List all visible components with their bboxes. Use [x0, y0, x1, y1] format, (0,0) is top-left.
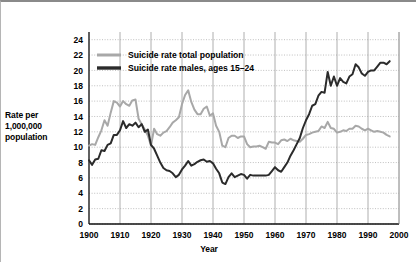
- svg-text:18: 18: [74, 81, 84, 91]
- chart-figure: Rate per 1,000,000 population Year 02468…: [0, 0, 416, 262]
- svg-text:1970: 1970: [297, 230, 316, 240]
- series-line-1: [89, 61, 390, 184]
- series-line-0: [89, 90, 390, 148]
- svg-text:16: 16: [74, 96, 84, 106]
- svg-text:10: 10: [74, 142, 84, 152]
- legend-label-1: Suicide rate males, ages 15–24: [128, 63, 254, 73]
- svg-text:1950: 1950: [235, 230, 254, 240]
- line-chart: 024681012141618202224 190019101920193019…: [1, 2, 416, 262]
- svg-text:24: 24: [74, 35, 84, 45]
- svg-text:1940: 1940: [204, 230, 223, 240]
- svg-text:2000: 2000: [390, 230, 409, 240]
- chart-legend: Suicide rate total populationSuicide rat…: [97, 50, 254, 73]
- svg-text:20: 20: [74, 66, 84, 76]
- y-axis-tick-labels: 024681012141618202224: [74, 35, 84, 229]
- svg-text:1930: 1930: [173, 230, 192, 240]
- svg-text:4: 4: [78, 188, 83, 198]
- svg-text:8: 8: [78, 158, 83, 168]
- svg-text:1980: 1980: [328, 230, 347, 240]
- svg-text:1910: 1910: [111, 230, 130, 240]
- svg-text:0: 0: [78, 219, 83, 229]
- svg-text:22: 22: [74, 50, 84, 60]
- svg-text:2: 2: [78, 204, 83, 214]
- legend-label-0: Suicide rate total population: [128, 50, 244, 60]
- x-axis-tick-labels: 1900191019201930194019501960197019801990…: [80, 230, 409, 240]
- svg-text:14: 14: [74, 112, 84, 122]
- svg-text:12: 12: [74, 127, 84, 137]
- svg-text:1920: 1920: [142, 230, 161, 240]
- svg-text:1960: 1960: [266, 230, 285, 240]
- svg-text:1900: 1900: [80, 230, 99, 240]
- svg-text:6: 6: [78, 173, 83, 183]
- svg-text:1990: 1990: [359, 230, 378, 240]
- data-series: [89, 61, 390, 184]
